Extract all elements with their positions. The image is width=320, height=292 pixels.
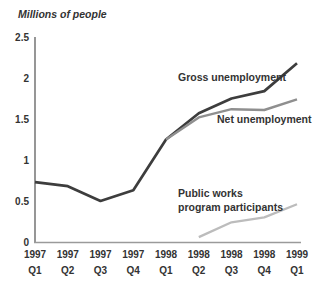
x-tick-quarter-label: Q4 (258, 265, 272, 276)
x-tick-year-label: 1997 (57, 249, 80, 260)
chart-plot-area: 00.511.522.51997Q11997Q21997Q31997Q41998… (0, 0, 320, 292)
unemployment-line-chart: Millions of people 00.511.522.51997Q1199… (0, 0, 320, 292)
y-tick-label: 0 (23, 237, 29, 248)
y-tick-label: 0.5 (15, 196, 29, 207)
x-tick-quarter-label: Q1 (290, 265, 304, 276)
y-tick-label: 2 (23, 73, 29, 84)
x-tick-year-label: 1999 (286, 249, 309, 260)
public-works-label: program participants (178, 201, 283, 213)
x-tick-year-label: 1997 (89, 249, 112, 260)
gross-unemployment-label: Gross unemployment (178, 71, 286, 83)
x-tick-quarter-label: Q1 (28, 265, 42, 276)
y-tick-label: 1.5 (15, 114, 29, 125)
x-tick-quarter-label: Q2 (192, 265, 206, 276)
x-tick-year-label: 1998 (220, 249, 243, 260)
series-line-gross-unemployment (35, 63, 297, 201)
x-tick-quarter-label: Q3 (225, 265, 239, 276)
x-tick-year-label: 1998 (188, 249, 211, 260)
y-tick-label: 1 (23, 155, 29, 166)
x-tick-year-label: 1997 (24, 249, 47, 260)
x-tick-year-label: 1998 (253, 249, 276, 260)
x-tick-year-label: 1998 (155, 249, 178, 260)
net-unemployment-label: Net unemployment (217, 113, 312, 125)
y-tick-label: 2.5 (15, 32, 29, 43)
x-tick-quarter-label: Q4 (127, 265, 141, 276)
x-tick-quarter-label: Q3 (94, 265, 108, 276)
x-tick-quarter-label: Q1 (159, 265, 173, 276)
x-tick-year-label: 1997 (122, 249, 145, 260)
public-works-label: Public works (178, 187, 243, 199)
x-tick-quarter-label: Q2 (61, 265, 75, 276)
